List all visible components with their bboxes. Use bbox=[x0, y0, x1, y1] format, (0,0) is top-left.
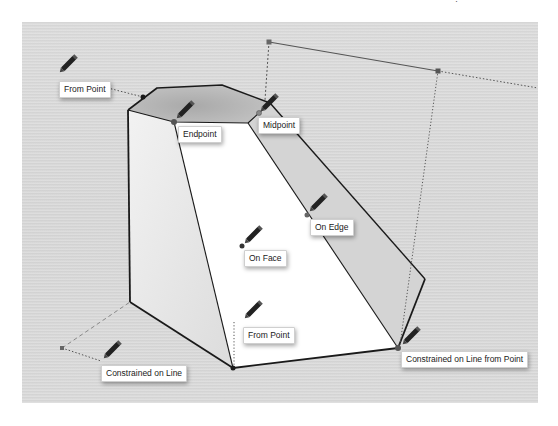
label-constrained-on-line-from-point: Constrained on Line from Point bbox=[401, 351, 528, 368]
pencil-icon bbox=[306, 189, 332, 215]
pencil-icon bbox=[257, 89, 283, 115]
pencil-icon bbox=[241, 296, 267, 322]
guide-point-1 bbox=[267, 40, 272, 45]
sketchup-viewport[interactable]: · bbox=[0, 0, 558, 426]
from-point-marker bbox=[141, 95, 146, 100]
label-from-point-top: From Point bbox=[59, 81, 111, 98]
guide-point-2 bbox=[436, 69, 441, 74]
pencil-icon bbox=[173, 96, 199, 122]
pencil-icon bbox=[241, 221, 267, 247]
label-on-face: On Face bbox=[244, 250, 287, 267]
label-on-edge: On Edge bbox=[310, 219, 354, 236]
label-endpoint: Endpoint bbox=[178, 126, 222, 143]
pencil-icon bbox=[56, 50, 82, 76]
bottom-vertex-marker bbox=[231, 366, 236, 371]
label-constrained-on-line: Constrained on Line bbox=[101, 365, 187, 382]
label-midpoint: Midpoint bbox=[258, 117, 300, 134]
pencil-icon bbox=[100, 336, 126, 362]
guide-point-3 bbox=[60, 346, 64, 350]
pencil-icon bbox=[399, 322, 425, 348]
label-from-point-bottom: From Point bbox=[243, 327, 295, 344]
